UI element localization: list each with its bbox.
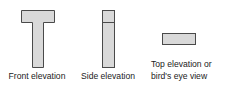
front-elevation-view: Front elevation [9, 11, 66, 81]
top-elevation-label-line1: Top elevation or [151, 59, 212, 69]
front-elevation-label: Front elevation [9, 71, 66, 81]
front-elevation-t-shape [22, 11, 55, 68]
elevation-views-diagram: Front elevation Side elevation Top eleva… [0, 0, 227, 90]
side-elevation-label: Side elevation [81, 71, 135, 81]
side-elevation-view: Side elevation [81, 11, 135, 81]
top-elevation-label-line2: bird's eye view [151, 71, 208, 81]
top-elevation-view: Top elevation or bird's eye view [151, 34, 212, 81]
top-elevation-rect [163, 34, 196, 45]
side-elevation-rect [103, 11, 115, 68]
